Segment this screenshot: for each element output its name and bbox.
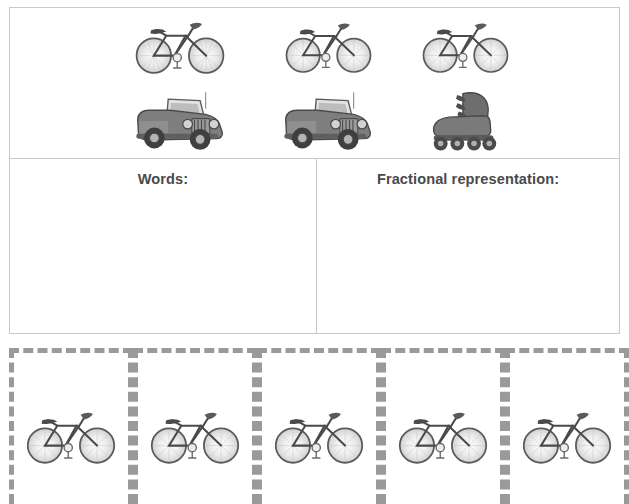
bicycle-icon bbox=[131, 15, 229, 77]
cutout-card[interactable] bbox=[133, 348, 257, 504]
cutout-card[interactable] bbox=[505, 348, 629, 504]
picture-item-bicycle-3 bbox=[405, 8, 525, 83]
answer-column-fraction: Fractional representation: bbox=[317, 159, 619, 333]
bicycle-icon bbox=[519, 405, 615, 467]
cutout-strip bbox=[9, 348, 626, 504]
cutout-card[interactable] bbox=[9, 348, 133, 504]
cutout-card[interactable] bbox=[381, 348, 505, 504]
bicycle-icon bbox=[271, 405, 367, 467]
words-answer-field[interactable] bbox=[10, 188, 316, 308]
jeep-icon bbox=[276, 88, 380, 154]
answer-row: Words: Fractional representation: bbox=[10, 159, 619, 333]
picture-item-bicycle-1 bbox=[120, 8, 240, 83]
cutout-card[interactable] bbox=[257, 348, 381, 504]
picture-row-bottom bbox=[10, 83, 619, 158]
fraction-answer-field[interactable] bbox=[317, 188, 619, 308]
jeep-icon bbox=[128, 88, 232, 154]
picture-item-jeep-1 bbox=[120, 83, 240, 158]
bicycle-icon bbox=[395, 405, 491, 467]
bicycle-icon bbox=[281, 16, 376, 76]
answer-column-words: Words: bbox=[10, 159, 317, 333]
picture-group bbox=[10, 8, 619, 159]
picture-item-bicycle-2 bbox=[268, 8, 388, 83]
bicycle-icon bbox=[147, 405, 243, 467]
picture-item-jeep-2 bbox=[268, 83, 388, 158]
words-label: Words: bbox=[19, 170, 307, 188]
picture-item-rollerblade bbox=[405, 83, 525, 158]
bicycle-icon bbox=[23, 405, 119, 467]
bicycle-icon bbox=[418, 16, 513, 76]
fractional-representation-label: Fractional representation: bbox=[326, 170, 610, 188]
picture-row-top bbox=[10, 8, 619, 83]
worksheet-main-panel: Words: Fractional representation: bbox=[9, 7, 620, 334]
rollerblade-icon bbox=[419, 88, 511, 154]
